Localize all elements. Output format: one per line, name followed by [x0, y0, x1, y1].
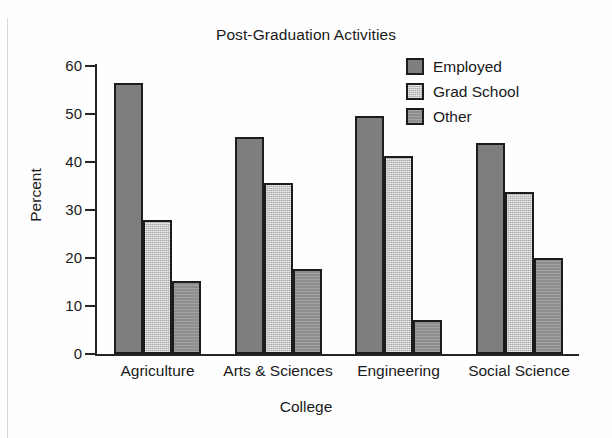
legend-swatch-icon	[406, 58, 424, 75]
x-axis-title: College	[0, 398, 612, 416]
x-axis-category-label: Social Science	[439, 362, 599, 380]
bar	[172, 281, 201, 354]
bar	[264, 183, 293, 354]
bar	[143, 220, 172, 354]
legend-item-label: Employed	[433, 58, 502, 75]
legend-swatch-icon	[406, 108, 424, 125]
bar	[235, 137, 264, 354]
chart-legend: EmployedGrad SchoolOther	[406, 54, 586, 129]
bar	[505, 192, 534, 354]
legend-item-label: Grad School	[433, 83, 519, 100]
bar	[534, 258, 563, 354]
bar	[114, 83, 143, 354]
legend-item: Grad School	[406, 79, 586, 104]
bar	[293, 269, 322, 354]
legend-item: Other	[406, 104, 586, 129]
legend-item-label: Other	[433, 108, 472, 125]
legend-item: Employed	[406, 54, 586, 79]
bar	[355, 116, 384, 354]
bar-chart: Post-Graduation Activities 0102030405060…	[0, 0, 612, 438]
bar	[413, 320, 442, 354]
bar	[476, 143, 505, 354]
bar	[384, 156, 413, 354]
legend-swatch-icon	[406, 83, 424, 100]
